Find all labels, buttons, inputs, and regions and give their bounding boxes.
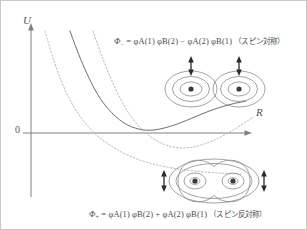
spin-arrow-right — [236, 56, 242, 76]
mo-spin-arrow-right — [261, 170, 267, 192]
origin-label: 0 — [15, 125, 20, 135]
potential-energy-figure: U R 0 Φ− = φA(1) φB(2) − φA(2) φB(1) （スピ… — [0, 0, 307, 230]
antibonding-equation: = φA(1) φB(2) − φA(2) φB(1) — [126, 36, 232, 46]
mo-contour-outer — [169, 159, 259, 203]
nucleus-left — [188, 86, 193, 91]
bonding-wavefunction-label: Φ+ = φA(1) φB(2) + φA(2) φB(1) （スピン反対称） — [89, 210, 266, 220]
antibonding-subscript: − — [121, 41, 124, 47]
bonding-symbol: Φ+ — [89, 209, 99, 219]
antibonding-symbol: Φ− — [114, 36, 124, 46]
bonding-equation: = φA(1) φB(2) + φA(2) φB(1) — [101, 209, 207, 219]
mo-nucleus-right — [230, 178, 235, 183]
bonding-note: （スピン反対称） — [209, 210, 266, 219]
axes-group — [23, 23, 252, 197]
curve-dotted-left — [45, 31, 241, 174]
y-axis-label: U — [23, 15, 31, 26]
mo-contour-second — [176, 164, 252, 199]
curve-dotted-right — [93, 31, 253, 148]
bonding-subscript: + — [96, 214, 99, 220]
x-axis-arrowhead — [245, 130, 253, 136]
mo-contour-peanut — [178, 160, 250, 202]
orbital-diagram-antibonding — [165, 56, 265, 107]
orbital-diagram-bonding — [161, 159, 267, 203]
antibonding-wavefunction-label: Φ− = φA(1) φB(2) − φA(2) φB(1) （スピン対称） — [114, 37, 284, 47]
nucleus-right — [236, 86, 241, 91]
mo-spin-arrow-left — [161, 170, 167, 192]
spin-arrow-left — [188, 56, 194, 76]
antibonding-note: （スピン対称） — [234, 37, 284, 46]
mo-nucleus-left — [192, 178, 197, 183]
x-axis-label: R — [256, 107, 263, 118]
